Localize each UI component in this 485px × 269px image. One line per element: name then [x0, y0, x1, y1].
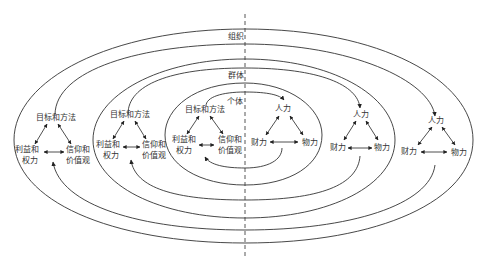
right-triangle-individual: 人力 财力 物力 — [251, 103, 318, 147]
organization-outer-ellipse — [14, 29, 473, 243]
node-interests-power-2: 权力 — [103, 150, 119, 160]
node-beliefs-values: 信仰和 — [66, 144, 90, 154]
node-human-resources: 人力 — [353, 109, 369, 119]
left-triangle-organization: 目标和方法 利益和 权力 信仰和 价值观 — [15, 112, 90, 165]
double-arrow — [418, 127, 432, 145]
double-arrow — [187, 116, 199, 134]
right-triangle-group: 人力 财力 物力 — [330, 109, 390, 152]
double-arrow — [113, 121, 124, 139]
individual-top-arc-right — [245, 92, 284, 100]
level-label-group: 群体 — [228, 70, 244, 80]
node-interests-power: 利益和 — [96, 139, 120, 149]
node-goals-methods: 目标和方法 — [36, 112, 76, 122]
node-financial-resources: 财力 — [401, 146, 417, 156]
node-financial-resources: 财力 — [251, 137, 267, 147]
individual-bottom-arc-right — [245, 148, 282, 168]
organization-bottom-arc-left — [53, 162, 245, 230]
right-triangle-organization: 人力 财力 物力 — [401, 115, 467, 157]
node-material-resources: 物力 — [451, 147, 467, 157]
node-material-resources: 物力 — [302, 137, 318, 147]
node-beliefs-values-2: 价值观 — [66, 155, 90, 165]
level-label-individual: 个体 — [227, 96, 243, 106]
node-material-resources: 物力 — [374, 142, 390, 152]
individual-bottom-arc-left — [205, 157, 245, 168]
individual-outer-ellipse — [165, 83, 322, 185]
node-beliefs-values: 信仰和 — [218, 134, 242, 144]
double-arrow — [35, 124, 47, 144]
node-beliefs-values: 信仰和 — [142, 139, 166, 149]
nested-levels-diagram: 组织 群体 个体 目标和方法 利益和 权力 信仰和 价值观 目标和方法 利益和 … — [0, 0, 485, 269]
organization-top-arc-right — [245, 44, 435, 116]
node-interests-power: 利益和 — [15, 144, 39, 154]
double-arrow — [58, 124, 71, 144]
level-label-organization: 组织 — [228, 31, 244, 41]
node-human-resources: 人力 — [428, 115, 444, 125]
node-human-resources: 人力 — [275, 103, 291, 113]
node-interests-power-2: 权力 — [176, 145, 192, 155]
node-interests-power-2: 权力 — [22, 155, 38, 165]
double-arrow — [344, 121, 356, 140]
node-beliefs-values-2: 价值观 — [218, 145, 242, 155]
node-goals-methods: 目标和方法 — [110, 109, 150, 119]
left-triangle-group: 目标和方法 利益和 权力 信仰和 价值观 — [96, 109, 166, 160]
double-arrow — [442, 127, 455, 145]
group-bottom-arc-left — [131, 160, 245, 200]
double-arrow — [135, 121, 146, 139]
node-interests-power: 利益和 — [172, 134, 196, 144]
double-arrow — [290, 116, 303, 135]
double-arrow — [266, 116, 279, 135]
group-bottom-arc-right — [245, 156, 360, 200]
group-top-arc-right — [245, 68, 360, 108]
node-beliefs-values-2: 价值观 — [142, 150, 166, 160]
node-goals-methods: 目标和方法 — [185, 104, 225, 114]
double-arrow — [210, 116, 223, 134]
organization-bottom-arc-right — [245, 165, 435, 230]
left-triangle-individual: 目标和方法 利益和 权力 信仰和 价值观 — [172, 104, 242, 155]
node-financial-resources: 财力 — [330, 142, 346, 152]
double-arrow — [366, 121, 378, 140]
